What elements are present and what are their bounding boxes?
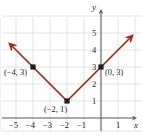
graph-figure: −5 −4 −3 −2 −1 1 5 4 3 2 1 y x (−4, 3) (… xyxy=(0,0,142,136)
y-tick-label-5: 5 xyxy=(92,29,96,38)
x-tick-label--4: −4 xyxy=(26,121,35,130)
marked-point-right xyxy=(98,64,103,69)
x-tick-label--2: −2 xyxy=(60,121,69,130)
x-tick-label-1: 1 xyxy=(116,121,120,130)
y-tick-label-1: 1 xyxy=(92,97,96,106)
y-tick-label-3: 3 xyxy=(92,63,96,72)
y-axis-label: y xyxy=(92,3,96,12)
x-tick-label--1: −1 xyxy=(77,121,86,130)
point-label-vertex: (−2, 1) xyxy=(44,105,67,114)
y-tick-label-4: 4 xyxy=(92,46,96,55)
point-label-right: (0, 3) xyxy=(105,68,123,77)
marked-point-vertex xyxy=(64,98,69,103)
marked-point-left xyxy=(30,64,35,69)
point-label-left: (−4, 3) xyxy=(4,68,27,77)
x-tick-label--3: −3 xyxy=(43,121,52,130)
y-tick-label-2: 2 xyxy=(92,80,96,89)
x-axis-label: x xyxy=(134,121,138,130)
x-tick-label--5: −5 xyxy=(9,121,18,130)
